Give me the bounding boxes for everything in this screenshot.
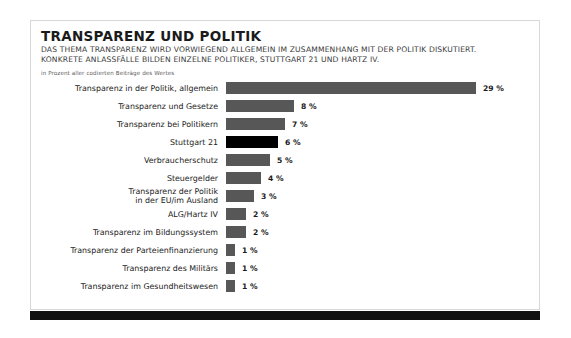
bar-category-label: Transparenz bei Politikern [41,120,226,129]
bar-value-label: 29 % [483,84,504,93]
bar-value-label: 2 % [253,228,269,237]
bar-value-label: 3 % [261,192,277,201]
bar-value-label: 2 % [253,210,269,219]
bar-value-label: 5 % [277,156,293,165]
bar-track: 8 % [226,100,531,112]
bar-category-label: Verbraucherschutz [41,156,226,165]
bar-category-label: Transparenz im Gesundheitswesen [41,282,226,291]
bar-value-label: 6 % [285,138,301,147]
bar-value-label: 7 % [292,120,308,129]
bar-category-label: Transparenz und Gesetze [41,102,226,111]
bar-row: Transparenz bei Politikern7 % [41,115,531,133]
footer-accent-bar [30,311,540,320]
bar-track: 29 % [226,82,531,94]
bar-category-label: Transparenz des Militärs [41,264,226,273]
bar-category-label: Transparenz der Politik in der EU/im Aus… [41,187,226,206]
bar-track: 1 % [226,262,531,274]
page-title: TRANSPARENZ UND POLITIK [41,28,531,44]
chart-card-inner: TRANSPARENZ UND POLITIK DAS THEMA TRANSP… [41,28,531,305]
bar-row: Steuergelder4 % [41,169,531,187]
bar-value-label: 1 % [242,264,258,273]
bar-row: Transparenz in der Politik, allgemein29 … [41,79,531,97]
bar-row: Transparenz und Gesetze8 % [41,97,531,115]
bar-track: 7 % [226,118,531,130]
bar-category-label: ALG/Hartz IV [41,210,226,219]
bar [226,280,235,292]
chart-card: TRANSPARENZ UND POLITIK DAS THEMA TRANSP… [30,20,540,310]
bar-value-label: 8 % [301,102,317,111]
chart-unit-note: in Prozent aller codierten Beiträge des … [41,70,531,76]
bar-track: 2 % [226,208,531,220]
bar-row: ALG/Hartz IV2 % [41,205,531,223]
bar-category-label: Steuergelder [41,174,226,183]
bar-track: 4 % [226,172,531,184]
bar-row: Stuttgart 216 % [41,133,531,151]
bar-category-label: Transparenz in der Politik, allgemein [41,84,226,93]
bar [226,190,254,202]
bar-track: 6 % [226,136,531,148]
bar-row: Transparenz der Parteienfinanzierung1 % [41,241,531,259]
bar-chart-plot: Transparenz in der Politik, allgemein29 … [41,79,531,295]
bar-value-label: 4 % [268,174,284,183]
bar-track: 1 % [226,244,531,256]
bar [226,172,261,184]
bar-highlighted [226,136,278,148]
bar-row: Verbraucherschutz5 % [41,151,531,169]
bar [226,262,235,274]
bar-row: Transparenz im Bildungssystem2 % [41,223,531,241]
bar-category-label: Stuttgart 21 [41,138,226,147]
bar [226,154,270,166]
bar [226,244,235,256]
bar-value-label: 1 % [242,246,258,255]
bar-category-label: Transparenz der Parteienfinanzierung [41,246,226,255]
bar [226,118,285,130]
chart-subtitle-line-1: DAS THEMA TRANSPARENZ WIRD VORWIEGEND AL… [41,45,531,55]
bar-category-label: Transparenz im Bildungssystem [41,228,226,237]
bar [226,82,476,94]
bar-row: Transparenz der Politik in der EU/im Aus… [41,187,531,205]
bar [226,208,246,220]
bar-track: 5 % [226,154,531,166]
bar-row: Transparenz im Gesundheitswesen1 % [41,277,531,295]
bar-row: Transparenz des Militärs1 % [41,259,531,277]
chart-subtitle-line-2: KONKRETE ANLASSFÄLLE BILDEN EINZELNE POL… [41,55,531,65]
bar-track: 2 % [226,226,531,238]
bar [226,100,294,112]
bar [226,226,246,238]
bar-value-label: 1 % [242,282,258,291]
bar-track: 1 % [226,280,531,292]
bar-track: 3 % [226,190,531,202]
